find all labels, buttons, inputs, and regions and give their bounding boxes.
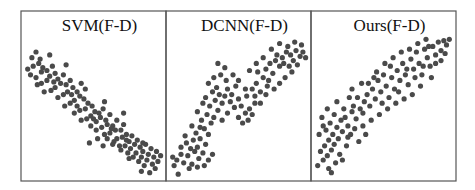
scatter-point-svm [79, 81, 84, 86]
scatter-point-dcnn [261, 55, 266, 60]
scatter-point-ours [393, 101, 398, 106]
scatter-point-dcnn [295, 62, 300, 67]
scatter-point-ours [340, 129, 345, 134]
scatter-point-ours [385, 106, 390, 111]
scatter-point-svm [139, 169, 144, 174]
scatter-point-ours [396, 89, 401, 94]
scatter-point-dcnn [200, 101, 205, 106]
scatter-point-dcnn [293, 48, 298, 53]
scatter-point-ours [410, 92, 415, 97]
scatter-point-svm [95, 136, 100, 141]
scatter-point-ours [326, 138, 331, 143]
scatter-point-dcnn [203, 142, 208, 147]
scatter-point-dcnn [191, 138, 196, 143]
scatter-point-dcnn [243, 111, 248, 116]
scatter-point-svm [58, 81, 63, 86]
scatter-point-dcnn [217, 92, 222, 97]
scatter-point-dcnn [247, 68, 252, 73]
scatter-point-ours [384, 84, 389, 89]
scatter-point-dcnn [299, 42, 304, 47]
scatter-point-svm [118, 128, 123, 133]
scatter-point-dcnn [198, 136, 203, 141]
scatter-point-svm [105, 122, 110, 127]
scatter-point-dcnn [178, 145, 183, 150]
scatter-point-ours [407, 47, 412, 52]
scatter-point-svm [114, 118, 119, 123]
scatter-point-svm [140, 140, 145, 145]
scatter-point-dcnn [273, 58, 278, 63]
scatter-point-ours [421, 64, 426, 69]
scatter-point-dcnn [236, 78, 241, 83]
scatter-point-svm [122, 143, 127, 148]
scatter-point-ours [315, 163, 320, 168]
scatter-point-svm [101, 143, 106, 148]
scatter-point-dcnn [222, 65, 227, 70]
scatter-point-dcnn [240, 120, 245, 125]
scatter-point-ours [354, 116, 359, 121]
scatter-point-ours [418, 84, 423, 89]
scatter-point-svm [101, 106, 106, 111]
scatter-point-svm [84, 116, 89, 121]
scatter-point-ours [365, 92, 370, 97]
scatter-point-svm [94, 128, 99, 133]
scatter-point-dcnn [255, 69, 260, 74]
scatter-point-ours [426, 44, 431, 49]
scatter-point-svm [44, 78, 49, 83]
scatter-point-ours [388, 64, 393, 69]
scatter-point-dcnn [292, 40, 297, 45]
scatter-point-ours [328, 120, 333, 125]
scatter-point-ours [400, 61, 405, 66]
scatter-point-ours [321, 123, 326, 128]
scatter-point-dcnn [189, 123, 194, 128]
scatter-point-dcnn [281, 61, 286, 66]
scatter-point-svm [69, 92, 74, 97]
scatter-point-svm [147, 170, 152, 175]
scatter-point-ours [370, 86, 375, 91]
scatter-point-dcnn [272, 86, 277, 91]
scatter-point-ours [369, 118, 374, 123]
scatter-point-dcnn [291, 58, 296, 63]
scatter-point-svm [50, 64, 55, 69]
scatter-point-ours [399, 49, 404, 54]
scatter-point-svm [61, 92, 66, 97]
scatter-point-ours [371, 75, 376, 80]
scatter-point-ours [322, 143, 327, 148]
scatter-point-svm [98, 115, 103, 120]
scatter-point-dcnn [185, 153, 190, 158]
scatter-point-dcnn [258, 89, 263, 94]
scatter-point-dcnn [300, 49, 305, 54]
scatter-point-svm [142, 163, 147, 168]
scatter-point-svm [51, 79, 56, 84]
scatter-point-svm [64, 82, 69, 87]
scatter-point-dcnn [189, 162, 194, 167]
scatter-point-dcnn [303, 55, 308, 60]
scatter-point-dcnn [172, 163, 177, 168]
scatter-point-svm [62, 103, 67, 108]
scatter-point-dcnn [203, 95, 208, 100]
scatter-point-dcnn [283, 75, 288, 80]
scatter-point-ours [380, 101, 385, 106]
scatter-point-dcnn [239, 103, 244, 108]
scatter-point-dcnn [263, 67, 268, 72]
scatter-point-svm [107, 112, 112, 117]
scatter-point-svm [105, 136, 110, 141]
scatter-point-ours [402, 96, 407, 101]
scatter-point-dcnn [184, 140, 189, 145]
scatter-point-ours [325, 153, 330, 158]
scatter-point-dcnn [225, 111, 230, 116]
scatter-point-svm [109, 126, 114, 131]
scatter-point-dcnn [224, 78, 229, 83]
scatter-point-svm [64, 62, 69, 67]
scatter-point-dcnn [198, 125, 203, 130]
scatter-point-dcnn [209, 120, 214, 125]
scatter-point-ours [355, 95, 360, 100]
scatter-point-svm [139, 155, 144, 160]
scatter-point-dcnn [244, 94, 249, 99]
scatter-point-svm [25, 67, 30, 72]
scatter-point-svm [38, 57, 43, 62]
scatter-point-dcnn [193, 130, 198, 135]
scatter-point-dcnn [218, 72, 223, 77]
scatter-point-dcnn [187, 166, 192, 171]
scatter-point-svm [77, 108, 82, 113]
scatter-point-dcnn [176, 172, 181, 177]
